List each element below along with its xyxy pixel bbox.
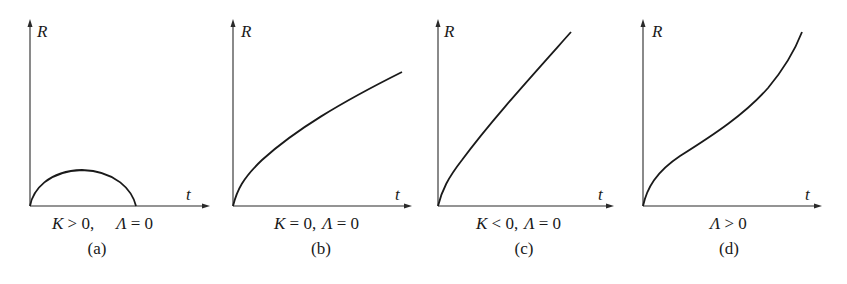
x-axis-arrow-icon (814, 204, 822, 209)
y-axis-arrow-icon (231, 19, 236, 27)
curve-recollapse (30, 170, 136, 206)
y-axis-label: R (651, 22, 663, 41)
condition-label: K > 0,Λ = 0 (51, 214, 153, 233)
curve-open (438, 32, 571, 206)
x-axis-arrow-icon (404, 204, 412, 209)
panel-d: R t Λ > 0 (d) (641, 19, 823, 258)
panel-caption: (b) (311, 239, 331, 258)
y-axis-arrow-icon (28, 19, 33, 27)
x-axis-label: t (186, 185, 192, 204)
panel-caption: (a) (88, 239, 107, 258)
curve-lambda (643, 32, 802, 206)
panel-c: R t K < 0,Λ = 0 (c) (436, 19, 615, 258)
y-axis-label: R (240, 22, 252, 41)
curve-flat (233, 72, 402, 206)
panel-caption: (d) (719, 239, 739, 258)
x-axis-label: t (598, 185, 604, 204)
y-axis-arrow-icon (641, 19, 646, 27)
y-axis-label: R (36, 22, 48, 41)
y-axis-arrow-icon (436, 19, 441, 27)
x-axis-arrow-icon (202, 204, 210, 209)
x-axis-label: t (395, 185, 401, 204)
panel-caption: (c) (515, 239, 534, 258)
x-axis-arrow-icon (606, 204, 614, 209)
friedmann-solutions-figure: R t K > 0,Λ = 0 (a) R t K = 0,Λ = 0 (b) … (0, 0, 847, 284)
x-axis-label: t (805, 185, 811, 204)
y-axis-label: R (443, 22, 455, 41)
panel-a: R t K > 0,Λ = 0 (a) (28, 19, 211, 258)
condition-label: K = 0,Λ = 0 (273, 214, 359, 233)
panel-b: R t K = 0,Λ = 0 (b) (231, 19, 413, 258)
condition-label: K < 0,Λ = 0 (475, 214, 561, 233)
condition-label: Λ > 0 (708, 214, 747, 233)
